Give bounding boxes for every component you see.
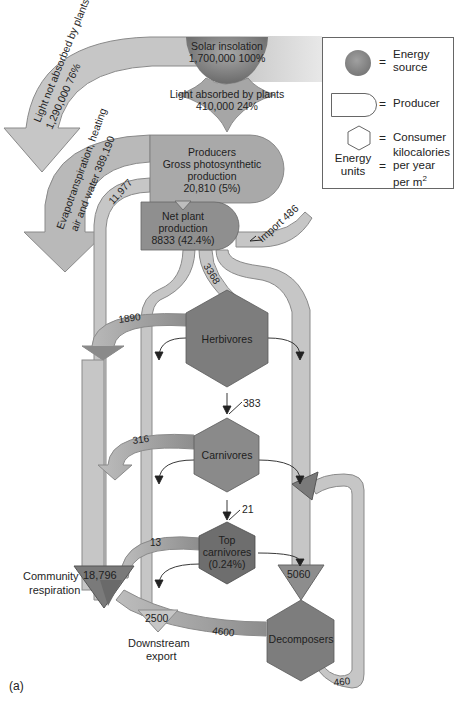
figure-caption: (a) — [9, 679, 24, 693]
downstream-export-label-1: Downstream — [128, 637, 190, 649]
legend-energy-units: Energyunits = kilocaloriesper yearper m2 — [323, 148, 453, 188]
legend-units-label: Energyunits — [333, 152, 373, 178]
legend-energy-source: = Energysource — [323, 46, 453, 82]
legend-consumer-label: Consumer — [393, 131, 446, 144]
legend-producer-label: Producer — [393, 97, 440, 110]
herbivores-label: Herbivores — [202, 333, 253, 345]
community-respiration-value: 18,796 — [83, 569, 117, 581]
net-plant-line1: Net plant — [162, 210, 204, 222]
energy-source-symbol-icon — [345, 50, 371, 76]
legend-equals: = — [379, 131, 386, 145]
solar-insolation-label: Solar insolation — [191, 40, 263, 52]
decomposer-respiration-flow — [116, 590, 266, 636]
producers-value: 20,810 (5%) — [183, 182, 240, 194]
light-absorbed-label: Light absorbed by plants — [170, 88, 284, 100]
top-carnivores-line1: Top — [219, 534, 236, 546]
legend-energy-source-label: Energysource — [393, 48, 429, 74]
producers-title: Producers — [188, 146, 236, 158]
net-plant-line2: production — [158, 222, 207, 234]
to-carnivores-value: 383 — [243, 397, 261, 409]
downstream-export-label-2: export — [146, 650, 177, 662]
decomposer-respiration-value: 4600 — [212, 625, 236, 638]
downstream-export-value: 2500 — [145, 612, 169, 624]
legend-producer: = Producer — [323, 90, 453, 120]
top-carnivore-respiration-value: 13 — [150, 537, 162, 548]
solar-insolation-value: 1,700,000 100% — [189, 52, 265, 64]
carnivores-label: Carnivores — [202, 449, 253, 461]
legend-equals: = — [379, 159, 386, 173]
decomposer-input-value: 5060 — [287, 568, 311, 580]
legend: = Energysource = Producer = Consumer Ene… — [322, 37, 454, 189]
to-top-carnivores-value: 21 — [242, 503, 254, 515]
legend-equals: = — [379, 97, 386, 111]
top-carnivores-line2: carnivores — [203, 546, 251, 558]
producers-line2: Gross photosynthetic — [163, 158, 262, 170]
legend-units-value: kilocaloriesper yearper m2 — [393, 146, 450, 189]
respiration-band — [82, 360, 104, 590]
decomposers-label: Decomposers — [269, 633, 334, 645]
community-respiration-label-1: Community — [23, 570, 79, 582]
community-respiration-label-2: respiration — [29, 584, 80, 596]
net-plant-value: 8833 (42.4%) — [151, 234, 214, 246]
legend-equals: = — [379, 55, 386, 69]
producers-line3: production — [187, 170, 236, 182]
top-carnivores-value: (0.24%) — [209, 558, 246, 570]
light-absorbed-value: 410,000 24% — [196, 100, 258, 112]
decomposer-recycle-value: 460 — [333, 675, 351, 688]
producer-symbol-icon — [331, 93, 377, 117]
